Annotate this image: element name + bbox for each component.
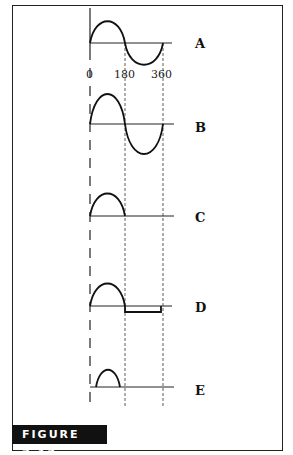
label-c: C <box>195 210 205 225</box>
waveform-b <box>90 94 174 154</box>
figure-caption: FIGURE 7.12 <box>12 425 107 444</box>
waveform-e <box>90 370 174 387</box>
tick-0: 0 <box>86 68 93 81</box>
tick-360: 360 <box>151 68 172 81</box>
label-b: B <box>195 120 206 135</box>
waveform-a <box>90 21 172 65</box>
label-e: E <box>195 383 205 398</box>
waveform-d <box>90 284 172 313</box>
label-a: A <box>195 36 205 51</box>
waveform-c <box>90 194 174 217</box>
tick-180: 180 <box>114 68 135 81</box>
label-d: D <box>195 300 206 315</box>
